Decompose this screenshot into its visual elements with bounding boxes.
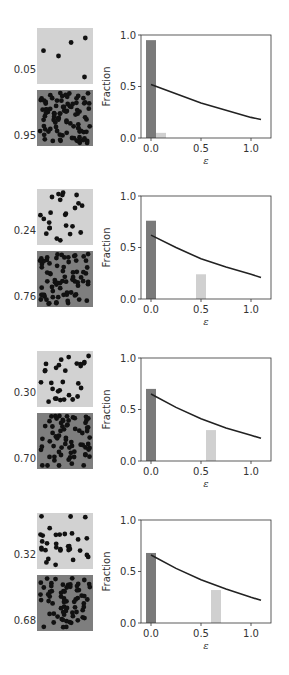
panel-2: 0.240.760.00.51.00.00.51.0εFraction [0,181,289,341]
light-particle-image [37,351,93,407]
panel-3: 0.300.700.00.51.00.00.51.0εFraction [0,343,289,503]
y-axis-label: Fraction [101,390,112,430]
fraction-chart: 0.00.51.00.00.51.0εFraction [100,20,289,180]
y-tick-label: 0.0 [120,133,136,144]
dark-particle-image [37,251,93,307]
fraction-chart: 0.00.51.00.00.51.0εFraction [100,181,289,341]
panel-4: 0.320.680.00.51.00.00.51.0εFraction [0,505,289,665]
x-axis-label: ε [203,640,208,651]
y-axis-label: Fraction [101,67,112,107]
x-tick-label: 0.0 [143,628,159,639]
decay-curve [151,235,261,277]
bar-epsilon-other [211,590,221,623]
fraction-chart: 0.00.51.00.00.51.0εFraction [100,343,289,503]
decay-curve [151,84,261,119]
y-tick-label: 0.5 [120,404,136,415]
x-tick-label: 0.5 [193,466,209,477]
bar-epsilon-zero [146,40,156,138]
x-axis-label: ε [203,316,208,327]
light-particle-image [37,513,93,569]
x-tick-label: 0.5 [193,304,209,315]
x-tick-label: 0.5 [193,628,209,639]
y-tick-label: 0.5 [120,81,136,92]
dark-particle-image [37,90,93,146]
y-tick-label: 0.5 [120,242,136,253]
x-tick-label: 1.0 [243,304,259,315]
fraction-chart: 0.00.51.00.00.51.0εFraction [100,505,289,665]
x-axis-label: ε [203,155,208,166]
light-particle-image [37,189,93,245]
decay-curve [151,555,261,600]
fraction-label: 0.05 [4,64,36,75]
fraction-label: 0.70 [4,453,36,464]
y-tick-label: 0.0 [120,618,136,629]
y-tick-label: 0.5 [120,566,136,577]
fraction-label: 0.24 [4,225,36,236]
fraction-label: 0.32 [4,549,36,560]
bar-epsilon-zero [146,221,156,299]
light-particle-image [37,28,93,84]
fraction-label: 0.95 [4,130,36,141]
bar-epsilon-zero [146,389,156,461]
y-tick-label: 1.0 [120,191,136,202]
y-tick-label: 0.0 [120,294,136,305]
y-tick-label: 1.0 [120,30,136,41]
x-tick-label: 1.0 [243,628,259,639]
y-tick-label: 1.0 [120,353,136,364]
x-tick-label: 0.5 [193,143,209,154]
y-tick-label: 1.0 [120,515,136,526]
fraction-label: 0.68 [4,615,36,626]
x-axis-label: ε [203,478,208,489]
fraction-label: 0.30 [4,387,36,398]
bar-epsilon-other [196,274,206,299]
x-tick-label: 1.0 [243,466,259,477]
x-tick-label: 0.0 [143,466,159,477]
y-axis-label: Fraction [101,552,112,592]
x-tick-label: 0.0 [143,304,159,315]
axes-frame [141,520,271,623]
dark-particle-image [37,575,93,631]
bar-epsilon-other [156,133,166,138]
dark-particle-image [37,413,93,469]
x-tick-label: 1.0 [243,143,259,154]
bar-epsilon-zero [146,553,156,623]
x-tick-label: 0.0 [143,143,159,154]
fraction-label: 0.76 [4,291,36,302]
y-axis-label: Fraction [101,228,112,268]
axes-frame [141,35,271,138]
bar-epsilon-other [206,430,216,461]
panel-1: 0.050.950.00.51.00.00.51.0εFraction [0,20,289,180]
y-tick-label: 0.0 [120,456,136,467]
